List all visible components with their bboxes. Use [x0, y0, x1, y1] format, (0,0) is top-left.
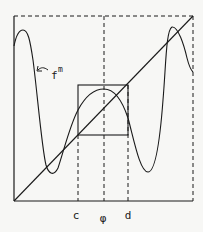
curve-pointer-arrow: [38, 68, 48, 70]
curve-superscript: m: [58, 65, 63, 74]
label-d: d: [125, 209, 132, 222]
label-c: c: [73, 209, 80, 222]
curve-label: f: [51, 69, 58, 82]
label-phi: φ: [100, 212, 107, 225]
diagram: f m c φ d: [0, 0, 203, 232]
